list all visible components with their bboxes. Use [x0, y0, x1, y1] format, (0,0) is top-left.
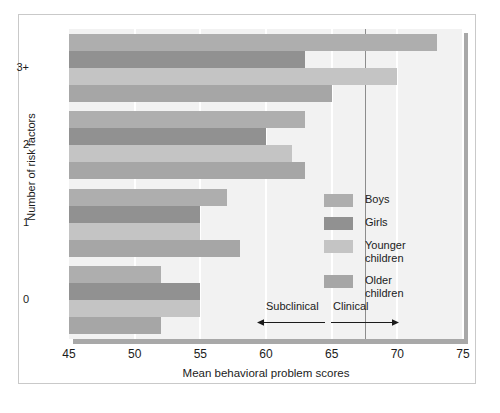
bar [69, 266, 161, 283]
bar [69, 111, 305, 128]
plot-shadow [73, 339, 468, 344]
bar [69, 206, 200, 223]
legend-swatch [324, 275, 353, 288]
subclinical-arrow-icon [257, 318, 325, 327]
legend-swatch [324, 194, 353, 207]
legend-item: Olderchildren [324, 274, 459, 300]
bar [69, 162, 305, 179]
bar [69, 51, 305, 68]
x-axis-tick-label: 55 [180, 347, 220, 361]
x-axis-title: Mean behavioral problem scores [69, 367, 463, 379]
x-axis-tick-label: 65 [312, 347, 352, 361]
bar [69, 223, 200, 240]
clinical-annotation-label: Clinical [333, 300, 368, 312]
bar [69, 300, 200, 317]
bar [69, 68, 397, 85]
bar [69, 189, 227, 206]
bar [69, 128, 266, 145]
legend-swatch [324, 240, 353, 253]
y-axis-title: Number of risk factors [25, 47, 37, 287]
bar [69, 85, 332, 102]
legend-item: Boys [324, 193, 459, 207]
figure-frame: 3+210 Number of risk factors 45505560657… [18, 14, 476, 384]
x-axis-tick-label: 50 [115, 347, 155, 361]
x-axis-tick-label: 45 [49, 347, 89, 361]
clinical-arrow-icon [331, 318, 399, 327]
legend-label: Boys [365, 193, 389, 206]
legend: BoysGirlsYoungerchildrenOlderchildren [324, 193, 459, 309]
legend-swatch [324, 217, 353, 230]
y-axis-tick-label: 0 [0, 293, 29, 305]
legend-label: Youngerchildren [365, 239, 406, 265]
bar [69, 145, 292, 162]
gridline [462, 29, 464, 339]
legend-label: Olderchildren [365, 274, 404, 300]
x-axis-tick-label: 70 [377, 347, 417, 361]
x-axis-tick-label: 75 [443, 347, 483, 361]
legend-item: Youngerchildren [324, 239, 459, 265]
legend-label: Girls [365, 216, 388, 229]
subclinical-annotation-label: Subclinical [266, 300, 319, 312]
legend-item: Girls [324, 216, 459, 230]
x-axis-tick-label: 60 [246, 347, 286, 361]
bar [69, 317, 161, 334]
bar [69, 240, 240, 257]
bar [69, 283, 200, 300]
bar [69, 34, 437, 51]
